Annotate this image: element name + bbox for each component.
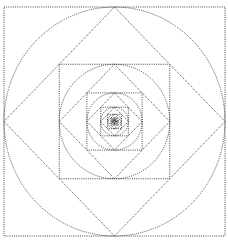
circle-level-2 [87,93,142,150]
circle-level-1 [59,64,170,179]
nested-squares-diagram [0,0,228,245]
square-level-1 [59,64,170,179]
shape-group [4,7,225,236]
circle-level-0 [4,7,225,236]
circle-level-4 [108,114,122,128]
circle-level-5 [111,118,118,125]
square-level-0 [4,7,225,236]
circle-level-3 [101,107,129,136]
diamond-level-0 [4,7,225,236]
diamond-level-1 [59,64,170,179]
